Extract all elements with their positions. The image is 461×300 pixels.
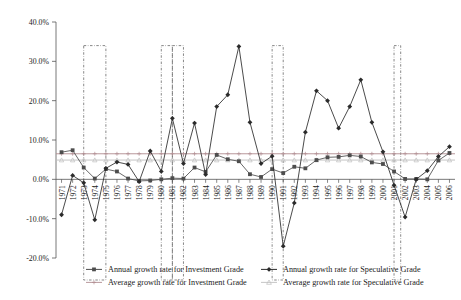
x-axis-tick-label-1989: 1989 (257, 185, 266, 200)
data-point (148, 149, 153, 154)
average-marker (392, 152, 396, 156)
data-point (159, 177, 163, 181)
x-axis-tick-label-1997: 1997 (346, 185, 355, 200)
data-point (381, 162, 385, 166)
data-point (347, 104, 352, 109)
y-axis-tick-label: 20.0% (29, 97, 50, 106)
x-axis-tick-label-1972: 1972 (69, 185, 78, 200)
data-point (215, 153, 219, 157)
data-point (370, 161, 374, 165)
x-axis-tick-label-1982: 1982 (179, 185, 188, 200)
data-point (248, 172, 252, 176)
legend-marker-square (92, 268, 96, 272)
data-point (270, 154, 275, 159)
average-marker (226, 152, 230, 156)
data-point (182, 177, 186, 181)
average-marker (204, 152, 208, 156)
x-axis-tick-label-1975: 1975 (102, 185, 111, 200)
data-point (315, 158, 319, 162)
data-point (337, 155, 341, 159)
legend-label-2: Average growth rate for Investment Grade (108, 278, 247, 287)
series-line-1 (62, 46, 450, 246)
y-axis-tick-label: 40.0% (29, 18, 50, 27)
average-marker (104, 152, 108, 156)
data-point (59, 212, 64, 217)
growth-rate-line-chart: 40.0%30.0%20.0%10.0%0.0%-10.0%-20.0%1971… (0, 0, 461, 300)
x-axis-tick-label-1991: 1991 (279, 185, 288, 200)
x-axis-tick-label-1994: 1994 (312, 185, 321, 200)
data-point (281, 244, 286, 249)
y-axis-tick-label: -10.0% (26, 215, 49, 224)
x-axis-tick-label-1986: 1986 (224, 185, 233, 200)
average-marker (303, 152, 307, 156)
data-point (193, 166, 197, 170)
data-point (70, 173, 75, 178)
x-axis-tick-label-1987: 1987 (235, 185, 244, 200)
data-point (93, 177, 97, 181)
average-marker (93, 152, 97, 156)
data-point (348, 153, 352, 157)
data-point (148, 179, 152, 183)
average-marker (126, 152, 130, 156)
data-point (159, 169, 164, 174)
data-point (259, 175, 263, 179)
y-axis-tick-label: 0.0% (33, 175, 50, 184)
recession-band-4 (394, 46, 401, 280)
y-axis-tick-label: 10.0% (29, 136, 50, 145)
average-marker (414, 152, 418, 156)
average-marker (170, 152, 174, 156)
average-marker (237, 152, 241, 156)
average-marker (425, 152, 429, 156)
x-axis-tick-label-2005: 2005 (434, 185, 443, 200)
y-axis-tick-label: -20.0% (26, 254, 49, 263)
data-point (82, 166, 86, 170)
recession-band-3 (272, 46, 283, 280)
data-point (236, 44, 241, 49)
x-axis-tick-label-2000: 2000 (379, 185, 388, 200)
x-axis-tick-label-1979: 1979 (146, 185, 155, 200)
x-axis-tick-label-1998: 1998 (357, 185, 366, 200)
x-axis-tick-label-1978: 1978 (135, 185, 144, 200)
x-axis-tick-label-1993: 1993 (301, 185, 310, 200)
data-point (336, 126, 341, 131)
data-point (60, 150, 64, 154)
average-marker (159, 152, 163, 156)
average-marker (403, 152, 407, 156)
average-marker (137, 152, 141, 156)
x-axis-tick-label-1983: 1983 (191, 185, 200, 200)
legend-item-0: Annual growth rate for Investment Grade (86, 265, 244, 274)
x-axis-tick-label-1973: 1973 (80, 185, 89, 200)
data-point (126, 162, 131, 167)
data-point (403, 215, 408, 220)
average-marker (193, 152, 197, 156)
legend-marker-diamond (267, 267, 272, 272)
average-marker (292, 152, 296, 156)
data-point (448, 151, 452, 155)
recession-band-2 (172, 46, 183, 280)
x-axis-tick-label-2002: 2002 (401, 185, 410, 200)
data-point (81, 180, 86, 185)
x-axis-tick-label-1971: 1971 (58, 185, 67, 200)
legend-label-1: Annual growth rate for Speculative Grade (283, 265, 421, 274)
data-point (436, 159, 440, 163)
average-marker (314, 152, 318, 156)
average-marker (326, 152, 330, 156)
average-marker (248, 152, 252, 156)
data-point (303, 166, 307, 170)
x-axis-tick-label-1976: 1976 (113, 185, 122, 200)
average-marker (115, 152, 119, 156)
data-point (403, 177, 407, 181)
average-marker (82, 152, 86, 156)
x-axis-tick-label-1981: 1981 (168, 185, 177, 200)
x-axis-tick-label-1996: 1996 (335, 185, 344, 200)
chart-container: 40.0%30.0%20.0%10.0%0.0%-10.0%-20.0%1971… (0, 0, 461, 300)
recession-band-0 (84, 46, 106, 280)
x-axis-tick-label-1974: 1974 (91, 185, 100, 200)
x-axis-tick-label-1977: 1977 (124, 185, 133, 200)
x-axis-tick-label-2004: 2004 (423, 185, 432, 200)
data-point (126, 177, 130, 181)
x-axis-tick-label-1984: 1984 (202, 185, 211, 200)
data-point (281, 171, 285, 175)
data-point (170, 176, 174, 180)
y-axis-tick-label: 30.0% (29, 57, 50, 66)
